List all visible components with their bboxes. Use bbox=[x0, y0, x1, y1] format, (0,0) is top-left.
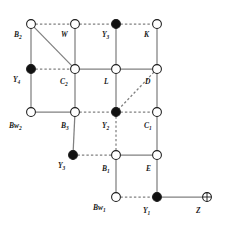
node-label-y3b: Y3 bbox=[58, 162, 65, 170]
graph-node-y4[interactable] bbox=[27, 65, 36, 74]
node-label-b1: B1 bbox=[102, 165, 110, 173]
node-marker bbox=[153, 193, 162, 202]
node-marker bbox=[71, 20, 80, 29]
node-marker bbox=[153, 151, 162, 160]
node-label-e: E bbox=[146, 165, 151, 173]
graph-node-bw1[interactable] bbox=[112, 193, 121, 202]
graph-node-bw2[interactable] bbox=[27, 108, 36, 117]
node-marker bbox=[112, 193, 121, 202]
graph-node-w[interactable] bbox=[71, 20, 80, 29]
node-marker bbox=[27, 20, 36, 29]
graph-node-y2[interactable] bbox=[112, 108, 121, 117]
node-label-w: W bbox=[61, 31, 68, 39]
node-label-y3t: Y3 bbox=[102, 31, 109, 39]
node-marker bbox=[153, 20, 162, 29]
node-label-y2: Y2 bbox=[102, 122, 109, 130]
graph-node-k[interactable] bbox=[153, 20, 162, 29]
graph-edge bbox=[73, 116, 75, 150]
graph-node-c1[interactable] bbox=[153, 108, 162, 117]
node-label-c2: C2 bbox=[60, 78, 68, 86]
node-marker bbox=[27, 108, 36, 117]
node-label-k: K bbox=[144, 31, 149, 39]
node-marker bbox=[71, 65, 80, 74]
graph-node-b2[interactable] bbox=[27, 20, 36, 29]
node-label-b2: B2 bbox=[14, 31, 22, 39]
graph-figure: B2WY3KY4C2LDBw2B3Y2C1Y3B1EBw1Y1Z bbox=[0, 0, 225, 226]
node-label-y4: Y4 bbox=[13, 76, 20, 84]
node-label-c1: C1 bbox=[144, 122, 152, 130]
node-marker bbox=[71, 108, 80, 117]
graph-node-y3t[interactable] bbox=[112, 20, 121, 29]
graph-node-y1[interactable] bbox=[153, 193, 162, 202]
node-marker bbox=[112, 151, 121, 160]
graph-node-d[interactable] bbox=[153, 65, 162, 74]
node-label-d: D bbox=[145, 78, 150, 86]
graph-node-b1[interactable] bbox=[112, 151, 121, 160]
graph-node-c2[interactable] bbox=[71, 65, 80, 74]
graph-node-z[interactable] bbox=[203, 193, 212, 202]
node-marker bbox=[69, 151, 78, 160]
node-marker bbox=[112, 20, 121, 29]
node-marker bbox=[112, 108, 121, 117]
node-label-b3: B3 bbox=[61, 122, 69, 130]
node-label-z: Z bbox=[196, 207, 201, 215]
graph-node-l[interactable] bbox=[112, 65, 121, 74]
node-marker bbox=[27, 65, 36, 74]
node-label-l: L bbox=[104, 78, 109, 86]
node-label-bw1: Bw1 bbox=[93, 204, 106, 212]
graph-node-b3[interactable] bbox=[71, 108, 80, 117]
node-label-y1: Y1 bbox=[143, 207, 150, 215]
graph-node-e[interactable] bbox=[153, 151, 162, 160]
graph-node-y3b[interactable] bbox=[69, 151, 78, 160]
graph-canvas bbox=[0, 0, 225, 226]
node-label-bw2: Bw2 bbox=[9, 122, 22, 130]
node-marker bbox=[112, 65, 121, 74]
node-marker bbox=[153, 65, 162, 74]
node-layer bbox=[27, 20, 212, 202]
node-marker bbox=[153, 108, 162, 117]
